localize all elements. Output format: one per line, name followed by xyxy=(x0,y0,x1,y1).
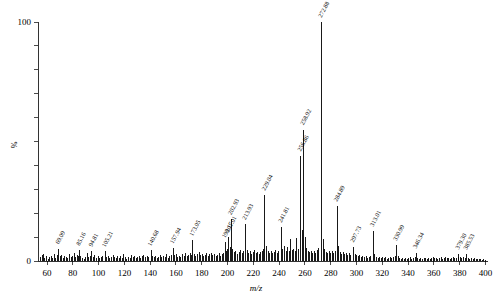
x-tick-label: 400 xyxy=(479,268,493,278)
peak-annotation-label: 256.86 xyxy=(296,134,310,152)
x-tick-label: 320 xyxy=(376,268,390,278)
mass-spectrum-figure: 6080100120140160180200220240260280300320… xyxy=(0,0,502,307)
x-tick-label: 380 xyxy=(453,268,467,278)
x-tick-label: 60 xyxy=(43,268,53,278)
axes-group xyxy=(38,22,488,261)
peak-annotation-label: 94.81 xyxy=(87,232,100,248)
spectrum-plot-canvas: 6080100120140160180200220240260280300320… xyxy=(0,0,502,307)
peak-annotation-label: 157.94 xyxy=(168,226,182,244)
y-axis-ticks-group xyxy=(34,22,38,261)
x-axis-tick-labels-group: 6080100120140160180200220240260280300320… xyxy=(43,268,493,278)
x-tick-label: 200 xyxy=(221,268,235,278)
peak-annotation-label: 241.81 xyxy=(276,205,290,223)
y-axis-tick-labels-group: 0100 xyxy=(18,17,32,266)
x-tick-label: 280 xyxy=(324,268,338,278)
x-axis-title: m/z xyxy=(250,283,263,293)
peak-annotation-label: 105.21 xyxy=(100,230,114,248)
x-tick-label: 100 xyxy=(92,268,106,278)
peak-annotation-label: 85.16 xyxy=(74,231,87,247)
x-tick-label: 220 xyxy=(247,268,261,278)
peak-annotation-label: 69.09 xyxy=(53,229,66,245)
peak-annotation-label: 229.04 xyxy=(260,173,274,191)
peak-annotation-label: 173.05 xyxy=(187,219,201,237)
x-tick-label: 360 xyxy=(427,268,441,278)
x-tick-label: 120 xyxy=(118,268,132,278)
x-axis-ticks-group xyxy=(47,261,485,265)
x-tick-label: 80 xyxy=(68,268,78,278)
peak-annotation-label: 201.01 xyxy=(224,215,238,233)
peak-annotation-label: 202.93 xyxy=(226,197,240,215)
peak-annotation-label: 258.92 xyxy=(298,108,312,126)
x-tick-label: 260 xyxy=(298,268,312,278)
peak-lines-group xyxy=(41,22,486,261)
peak-annotation-label: 297.73 xyxy=(348,225,362,243)
peak-annotation-label: 346.34 xyxy=(411,231,425,249)
x-tick-label: 180 xyxy=(195,268,209,278)
x-tick-label: 160 xyxy=(169,268,183,278)
y-tick-label: 0 xyxy=(27,256,32,266)
peak-annotation-label: 284.89 xyxy=(332,184,346,202)
y-axis-title: % xyxy=(10,141,19,148)
peak-annotation-label: 272.88 xyxy=(316,0,330,18)
peak-annotation-label: 213.93 xyxy=(240,202,254,220)
x-tick-label: 240 xyxy=(272,268,286,278)
x-tick-label: 140 xyxy=(143,268,157,278)
peak-annotation-label: 140.68 xyxy=(146,229,160,247)
x-tick-label: 340 xyxy=(401,268,415,278)
x-tick-label: 300 xyxy=(350,268,364,278)
peak-annotation-label: 330.99 xyxy=(391,223,405,241)
y-tick-label: 100 xyxy=(18,17,32,27)
peak-annotation-label: 313.01 xyxy=(368,209,382,227)
